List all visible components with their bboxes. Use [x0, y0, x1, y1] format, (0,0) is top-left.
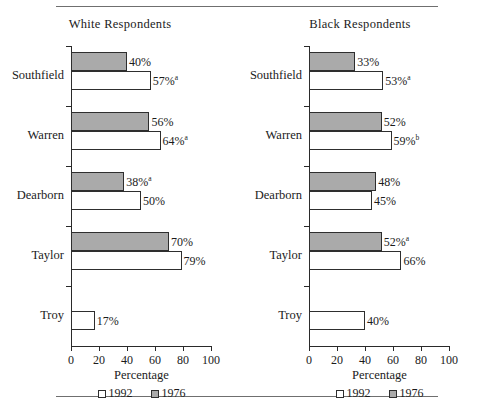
y-axis-tick — [304, 46, 309, 47]
category-label-troy: Troy — [210, 308, 302, 323]
bar-value-label: 57%a — [153, 73, 178, 88]
x-axis-tick — [71, 346, 72, 351]
bar-value-label: 17% — [97, 313, 119, 328]
bar-1992-warren: 64%a — [71, 131, 161, 150]
bar-value-label: 64%a — [163, 133, 188, 148]
x-axis-title: Percentage — [309, 368, 450, 383]
legend-label-1992: 1992 — [109, 386, 133, 401]
category-label-warren: Warren — [210, 128, 302, 143]
bar-value-label: 70% — [171, 234, 193, 249]
legend-item-1992: 1992 — [98, 386, 133, 401]
x-axis-tick — [99, 346, 100, 351]
x-axis-tick — [365, 346, 366, 351]
bar-1976-dearborn: 38%a — [71, 172, 124, 191]
bar-value-label: 79% — [184, 253, 206, 268]
category-label-southfield: Southfield — [0, 68, 64, 83]
category-label-dearborn: Dearborn — [0, 188, 64, 203]
bar-value-label: 48% — [378, 174, 400, 189]
bar-1992-taylor: 79% — [71, 251, 182, 270]
bar-value-label: 56% — [151, 114, 173, 129]
x-axis-tick — [421, 346, 422, 351]
bar-1976-southfield: 40% — [71, 52, 127, 71]
bar-value-label: 33% — [357, 54, 379, 69]
bar-1992-dearborn: 45% — [309, 191, 372, 210]
category-label-southfield: Southfield — [210, 68, 302, 83]
legend-swatch-1976-icon — [389, 390, 397, 398]
bar-value-label: 45% — [374, 193, 396, 208]
x-axis-tick — [337, 346, 338, 351]
legend: 1992 1976 — [299, 386, 460, 401]
x-axis-tick-label: 100 — [191, 353, 231, 368]
x-axis-tick — [155, 346, 156, 351]
x-axis-tick — [309, 346, 310, 351]
bar-1992-troy: 17% — [71, 311, 95, 330]
plot-area: Southfield Warren Dearborn Taylor Troy 4… — [71, 46, 211, 346]
panel-black-respondents: Black Respondents Southfield Warren Dear… — [240, 0, 480, 407]
bar-value-label: 40% — [367, 313, 389, 328]
y-axis-tick — [66, 106, 71, 107]
y-axis-tick — [66, 226, 71, 227]
y-axis-tick — [66, 166, 71, 167]
bar-value-label: 50% — [143, 193, 165, 208]
bar-value-label: 52%a — [384, 234, 409, 249]
bar-1976-taylor: 70% — [71, 232, 169, 251]
x-axis-line — [71, 346, 212, 347]
plot-area: Southfield Warren Dearborn Taylor Troy 3… — [309, 46, 449, 346]
bar-1976-taylor: 52%a — [309, 232, 382, 251]
bar-1992-southfield: 53%a — [309, 71, 383, 90]
category-label-dearborn: Dearborn — [210, 188, 302, 203]
x-axis-line — [309, 346, 450, 347]
category-label-warren: Warren — [0, 128, 64, 143]
x-axis-title: Percentage — [71, 368, 212, 383]
x-axis-tick — [449, 346, 450, 351]
legend-item-1976: 1976 — [389, 386, 424, 401]
bar-1992-taylor: 66% — [309, 251, 401, 270]
x-axis-tick — [393, 346, 394, 351]
bar-1976-dearborn: 48% — [309, 172, 376, 191]
bar-1992-warren: 59%b — [309, 131, 392, 150]
y-axis-tick — [66, 286, 71, 287]
bar-value-label: 59%b — [394, 133, 420, 148]
bar-1976-southfield: 33% — [309, 52, 355, 71]
legend-label-1992: 1992 — [347, 386, 371, 401]
x-axis-tick — [183, 346, 184, 351]
category-label-taylor: Taylor — [210, 248, 302, 263]
category-label-troy: Troy — [0, 308, 64, 323]
legend-label-1976: 1976 — [400, 386, 424, 401]
bar-value-label: 38%a — [126, 174, 151, 189]
panel-title: White Respondents — [0, 17, 240, 32]
legend-label-1976: 1976 — [162, 386, 186, 401]
legend-swatch-1992-icon — [98, 390, 106, 398]
bar-1992-southfield: 57%a — [71, 71, 151, 90]
legend-swatch-1992-icon — [336, 390, 344, 398]
panel-title: Black Respondents — [240, 17, 480, 32]
legend: 1992 1976 — [61, 386, 222, 401]
bar-1976-warren: 52% — [309, 112, 382, 131]
y-axis-tick — [304, 226, 309, 227]
x-axis-tick — [127, 346, 128, 351]
legend-item-1992: 1992 — [336, 386, 371, 401]
y-axis-tick — [304, 166, 309, 167]
x-axis-tick-label: 100 — [429, 353, 469, 368]
bar-value-label: 40% — [129, 54, 151, 69]
y-axis-tick — [66, 46, 71, 47]
legend-swatch-1976-icon — [151, 390, 159, 398]
bar-value-label: 53%a — [385, 73, 410, 88]
bar-value-label: 66% — [403, 253, 425, 268]
y-axis-tick — [304, 106, 309, 107]
category-label-taylor: Taylor — [0, 248, 64, 263]
legend-item-1976: 1976 — [151, 386, 186, 401]
bar-1992-dearborn: 50% — [71, 191, 141, 210]
bar-value-label: 52% — [384, 114, 406, 129]
panel-white-respondents: White Respondents Southfield Warren Dear… — [0, 0, 240, 407]
x-axis-tick — [211, 346, 212, 351]
bar-1976-warren: 56% — [71, 112, 149, 131]
bar-1992-troy: 40% — [309, 311, 365, 330]
y-axis-tick — [304, 286, 309, 287]
